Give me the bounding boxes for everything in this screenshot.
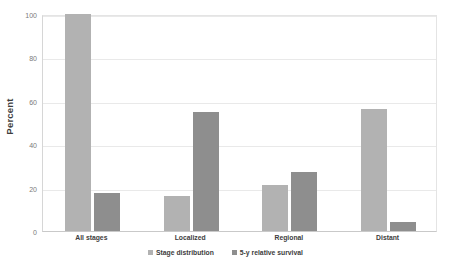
chart-legend: Stage distribution5-y relative survival (0, 249, 451, 256)
y-axis-tick-label: 60 (29, 98, 37, 105)
y-axis-tick-label: 80 (29, 55, 37, 62)
y-axis-title: Percent (0, 0, 18, 232)
x-axis-category-labels: All stagesLocalizedRegionalDistant (42, 234, 437, 248)
legend-item-label: Stage distribution (156, 249, 214, 256)
y-axis-tick-label: 0 (33, 229, 37, 236)
bar-group (43, 16, 438, 231)
y-axis-tick-label: 40 (29, 142, 37, 149)
y-axis-title-label: Percent (4, 98, 15, 134)
plot-area (42, 15, 437, 232)
bars-layer (43, 16, 436, 231)
bar (361, 109, 387, 231)
y-axis-tick-label: 20 (29, 185, 37, 192)
legend-item[interactable]: 5-y relative survival (232, 249, 303, 256)
bar-chart: Percent 020406080100 All stagesLocalized… (0, 0, 451, 265)
bar (390, 222, 416, 231)
x-axis-category-label: Distant (376, 234, 399, 241)
legend-swatch-icon (148, 250, 153, 255)
legend-item[interactable]: Stage distribution (148, 249, 214, 256)
legend-item-label: 5-y relative survival (240, 249, 303, 256)
x-axis-category-label: Localized (175, 234, 206, 241)
x-axis-category-label: Regional (275, 234, 304, 241)
x-axis-category-label: All stages (75, 234, 107, 241)
legend-swatch-icon (232, 250, 237, 255)
y-axis-tick-labels: 020406080100 (18, 10, 40, 232)
y-axis-tick-label: 100 (25, 12, 37, 19)
